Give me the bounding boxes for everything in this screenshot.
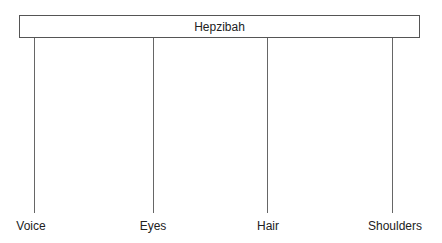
branch-line-voice (34, 38, 35, 213)
root-node-label: Hepzibah (194, 20, 245, 34)
child-label-shoulders: Shoulders (368, 219, 422, 233)
child-label-hair: Hair (257, 219, 279, 233)
branch-line-hair (267, 38, 268, 213)
branch-line-shoulders (392, 38, 393, 213)
branch-line-eyes (153, 38, 154, 213)
child-label-voice: Voice (16, 219, 45, 233)
root-node-hepzibah: Hepzibah (19, 15, 420, 38)
child-label-eyes: Eyes (140, 219, 167, 233)
